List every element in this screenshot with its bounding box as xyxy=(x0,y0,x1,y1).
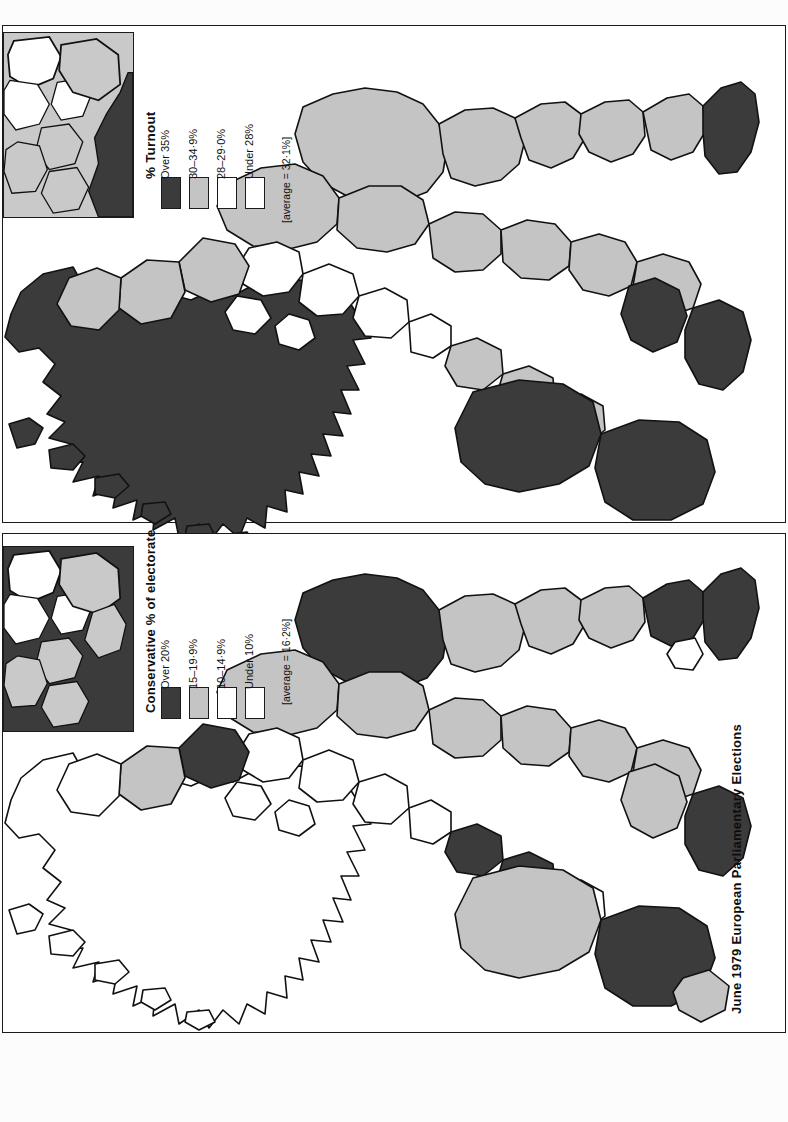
legend-swatch-box-1 xyxy=(189,177,209,209)
legend-swatch-box-0 xyxy=(161,687,181,719)
legend-swatch-2: 28–29·0% xyxy=(217,177,237,209)
inset-svg-turnout xyxy=(4,33,133,217)
legend-title-turnout: % Turnout xyxy=(143,111,158,179)
legend-swatch-box-2 xyxy=(217,687,237,719)
inset-map-conservative xyxy=(3,546,134,732)
region-isle-a xyxy=(9,418,43,448)
legend-average-conservative: [average = 16·2%] xyxy=(280,619,292,705)
region-north-east-2 xyxy=(439,594,525,672)
legend-swatch-label-0: Over 35% xyxy=(159,130,171,179)
region-ne-tip xyxy=(703,568,759,660)
region-isle-a xyxy=(9,904,43,934)
legend-swatch-1: 30–34·9% xyxy=(189,177,209,209)
legend-swatch-1: 15–19·9% xyxy=(189,687,209,719)
region-mid-3 xyxy=(429,212,501,272)
legend-swatch-box-0 xyxy=(161,177,181,209)
legend-swatch-label-1: 15–19·9% xyxy=(187,639,199,689)
region-white-4 xyxy=(409,314,451,358)
region-south-4 xyxy=(621,764,687,838)
region-mid-2 xyxy=(337,186,429,252)
region-south-1 xyxy=(455,866,601,978)
region-south-2 xyxy=(595,420,715,520)
region-grampian xyxy=(643,94,705,160)
legend-swatch-label-0: Over 20% xyxy=(159,640,171,689)
region-mid-4 xyxy=(501,220,571,280)
region-mid-2 xyxy=(337,672,429,738)
legend-swatch-box-3 xyxy=(245,177,265,209)
legend-swatch-2: 10–14·9% xyxy=(217,687,237,719)
region-white-3 xyxy=(353,774,409,824)
figure-page: % Turnout Over 35% 30–34·9% 28–29·0% Und… xyxy=(0,0,788,1122)
region-south-1 xyxy=(455,380,601,492)
region-white-4 xyxy=(409,800,451,844)
legend-swatches-conservative: Over 20% 15–19·9% 10–14·9% Under 10% [av… xyxy=(161,581,289,746)
region-mid-3 xyxy=(429,698,501,758)
region-mid-5 xyxy=(569,234,637,296)
legend-swatches-turnout: Over 35% 30–34·9% 28–29·0% Under 28% [av… xyxy=(161,71,289,236)
region-mid-5 xyxy=(569,720,637,782)
legend-swatch-label-1: 30–34·9% xyxy=(187,129,199,179)
legend-turnout: % Turnout Over 35% 30–34·9% 28–29·0% Und… xyxy=(131,71,291,236)
region-white-3 xyxy=(353,288,409,338)
figure-caption: June 1979 European Parliamentary Electio… xyxy=(729,724,744,1014)
legend-average-turnout: [average = 32·1%] xyxy=(280,137,292,223)
panel-conservative: Conservative % of electorate Over 20% 15… xyxy=(2,533,786,1033)
legend-swatch-box-1 xyxy=(189,687,209,719)
region-central-4 xyxy=(445,824,503,876)
region-central-4 xyxy=(445,338,503,390)
legend-swatch-box-2 xyxy=(217,177,237,209)
legend-conservative: Conservative % of electorate Over 20% 15… xyxy=(131,581,291,746)
legend-swatch-0: Over 35% xyxy=(161,177,181,209)
legend-swatch-3: Under 10% xyxy=(245,687,265,719)
region-north-east-4 xyxy=(579,100,645,162)
legend-swatch-3: Under 28% xyxy=(245,177,265,209)
region-south-4 xyxy=(621,278,687,352)
inset-map-turnout xyxy=(3,32,134,218)
region-north-east-4 xyxy=(579,586,645,648)
legend-title-conservative: Conservative % of electorate xyxy=(143,530,158,713)
region-south-3 xyxy=(685,300,751,390)
legend-swatch-label-3: Under 10% xyxy=(243,634,255,689)
region-ne-tip xyxy=(703,82,759,174)
legend-swatch-box-3 xyxy=(245,687,265,719)
region-north-east-2 xyxy=(439,108,525,186)
region-north-east-3 xyxy=(515,102,585,168)
legend-swatch-label-3: Under 28% xyxy=(243,124,255,179)
legend-swatch-label-2: 10–14·9% xyxy=(215,639,227,689)
region-north-east-3 xyxy=(515,588,585,654)
region-grampian xyxy=(643,580,705,646)
legend-swatch-0: Over 20% xyxy=(161,687,181,719)
region-central-1 xyxy=(179,238,249,302)
legend-swatch-label-2: 28–29·0% xyxy=(215,129,227,179)
region-mid-4 xyxy=(501,706,571,766)
panel-turnout: % Turnout Over 35% 30–34·9% 28–29·0% Und… xyxy=(2,25,786,523)
inset-svg-conservative xyxy=(4,547,133,731)
